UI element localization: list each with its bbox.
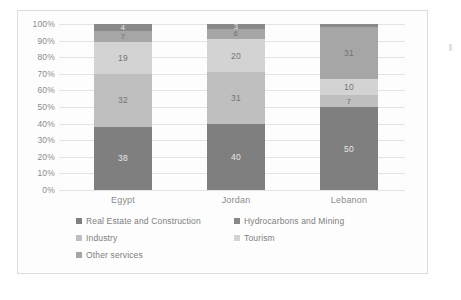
legend-swatch-icon [76, 235, 82, 241]
bar-segment-value: 7 [121, 32, 125, 41]
bar-segment-value: 20 [231, 51, 241, 61]
bar-segment-value: 19 [118, 53, 128, 63]
bar-segment-value: 38 [118, 153, 128, 163]
bar-segment-egypt-other-services[interactable]: 7 [94, 31, 152, 43]
bar-segment-egypt-hydrocarbons-and-mining[interactable]: 4 [94, 24, 152, 31]
legend-item-industry[interactable]: Industry [76, 233, 234, 243]
x-axis-category-label-jordan: Jordan [191, 195, 281, 205]
legend-item-real-estate-and-construction[interactable]: Real Estate and Construction [76, 216, 234, 226]
bar-segment-lebanon-other-services[interactable]: 31 [320, 27, 378, 78]
legend-item-hydrocarbons-and-mining[interactable]: Hydrocarbons and Mining [234, 216, 344, 226]
bar-segment-jordan-tourism[interactable]: 20 [207, 39, 265, 72]
bar-segment-value: 4 [121, 23, 125, 32]
y-axis-tick-label: 0% [42, 185, 55, 195]
stacked-bar-egypt[interactable]: 38321974 [94, 24, 152, 190]
legend-label: Industry [86, 233, 117, 243]
legend-item-other-services[interactable]: Other services [76, 250, 234, 260]
bar-segment-egypt-tourism[interactable]: 19 [94, 42, 152, 74]
bar-segment-jordan-real-estate-and-construction[interactable]: 40 [207, 124, 265, 190]
bar-segment-jordan-industry[interactable]: 31 [207, 72, 265, 123]
bar-segment-egypt-real-estate-and-construction[interactable]: 38 [94, 127, 152, 190]
y-axis-tick-label: 100% [32, 19, 55, 29]
bar-segment-value: 50 [344, 144, 354, 154]
legend-item-tourism[interactable]: Tourism [234, 233, 275, 243]
legend-row: Other services [76, 250, 406, 260]
scan-artifact-mark [449, 44, 452, 51]
chart-frame: 0%10%20%30%40%50%60%70%80%90%100%3832197… [17, 10, 428, 274]
y-axis-tick-label: 80% [37, 52, 55, 62]
y-axis-tick-label: 90% [37, 36, 55, 46]
bar-segment-value: 31 [344, 48, 354, 58]
plot-area: 0%10%20%30%40%50%60%70%80%90%100%3832197… [59, 24, 405, 190]
y-axis-tick-label: 70% [37, 69, 55, 79]
bar-segment-jordan-hydrocarbons-and-mining[interactable]: 3 [207, 24, 265, 29]
y-axis-tick-label: 10% [37, 168, 55, 178]
legend-swatch-icon [76, 218, 82, 224]
stacked-bar-jordan[interactable]: 40312063 [207, 24, 265, 190]
bar-segment-lebanon-industry[interactable]: 7 [320, 95, 378, 107]
bar-segment-value: 7 [347, 97, 351, 106]
legend-label: Other services [86, 250, 143, 260]
bar-segment-value: 10 [344, 82, 354, 92]
y-axis-tick-label: 40% [37, 119, 55, 129]
legend-label: Real Estate and Construction [86, 216, 201, 226]
legend-swatch-icon [234, 218, 240, 224]
legend-swatch-icon [234, 235, 240, 241]
legend-label: Hydrocarbons and Mining [244, 216, 344, 226]
bar-segment-egypt-industry[interactable]: 32 [94, 74, 152, 127]
bar-segment-lebanon-tourism[interactable]: 10 [320, 79, 378, 96]
y-axis-tick-label: 30% [37, 135, 55, 145]
legend-row: Real Estate and ConstructionHydrocarbons… [76, 216, 406, 226]
gridline-0% [59, 190, 405, 191]
bar-segment-lebanon-hydrocarbons-and-mining[interactable] [320, 24, 378, 27]
x-axis-category-label-egypt: Egypt [78, 195, 168, 205]
stacked-bar-lebanon[interactable]: 5071031 [320, 24, 378, 190]
chart-legend: Real Estate and ConstructionHydrocarbons… [76, 216, 406, 267]
bar-segment-value: 31 [231, 93, 241, 103]
bar-segment-value: 40 [231, 152, 241, 162]
y-axis-tick-label: 50% [37, 102, 55, 112]
bar-segment-lebanon-real-estate-and-construction[interactable]: 50 [320, 107, 378, 190]
y-axis-tick-label: 60% [37, 85, 55, 95]
legend-label: Tourism [244, 233, 275, 243]
y-axis-tick-label: 20% [37, 152, 55, 162]
legend-row: IndustryTourism [76, 233, 406, 243]
x-axis-category-label-lebanon: Lebanon [304, 195, 394, 205]
legend-swatch-icon [76, 252, 82, 258]
bar-segment-value: 3 [234, 22, 238, 31]
bar-segment-value: 32 [118, 95, 128, 105]
